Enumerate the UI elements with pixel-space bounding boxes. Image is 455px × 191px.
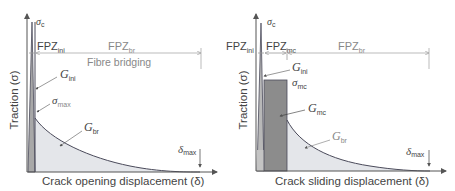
delta-max-label: δmax — [406, 145, 425, 158]
fpz-ini-label: FPZini — [37, 40, 65, 54]
sigma-mc-label: σmc — [292, 76, 307, 90]
fpz-ini-label: FPZini — [226, 40, 254, 54]
cohesive-law-diagram: σc FPZini FPZbr Fibre bridging Gini σmax… — [0, 0, 455, 191]
g-br-area — [35, 118, 200, 172]
panel-mode-i: σc FPZini FPZbr Fibre bridging Gini σmax… — [8, 14, 217, 187]
fpz-br-label: FPZbr — [338, 40, 366, 54]
x-axis-label: Crack opening displacement (δ) — [42, 175, 205, 187]
g-br-label: Gbr — [332, 129, 348, 144]
g-ini-area — [257, 23, 264, 171]
fpz-mc-label: FPZmc — [266, 40, 297, 54]
g-mc-label: Gmc — [308, 101, 327, 116]
fibre-bridging-label: Fibre bridging — [87, 56, 151, 68]
sigma-c-label: σc — [36, 16, 45, 28]
sigma-max-label: σmax — [52, 94, 71, 108]
g-br-label: Gbr — [84, 120, 100, 135]
g-ini-label: Gini — [60, 67, 76, 82]
delta-max-label: δmax — [178, 143, 197, 156]
y-axis-label: Traction (σ) — [237, 70, 249, 129]
y-axis-label: Traction (σ) — [8, 70, 20, 129]
sigma-c-label: σc — [267, 16, 276, 28]
g-mc-area — [264, 80, 287, 171]
g-ini-area — [28, 22, 35, 172]
g-ini-label: Gini — [292, 60, 308, 75]
x-axis-label: Crack sliding displacement (δ) — [275, 175, 429, 187]
fpz-br-label: FPZbr — [108, 40, 136, 54]
panel-mode-ii: σc FPZini FPZmc FPZbr Gini σmc Gmc Gbr δ… — [226, 14, 446, 187]
